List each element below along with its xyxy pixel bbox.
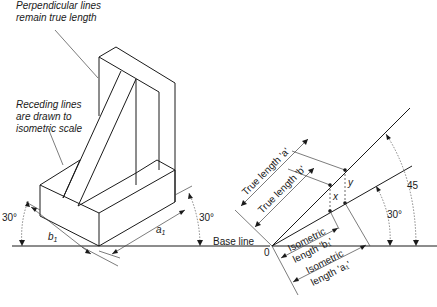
web-front-edge-2 <box>78 79 136 206</box>
point-b-true <box>328 183 332 187</box>
arrowhead <box>386 134 391 140</box>
arrowhead <box>197 240 203 246</box>
receding-annotation-line3: isometric scale <box>16 123 83 134</box>
left-30-angle-arc <box>22 201 28 246</box>
iso-b-extension <box>330 211 339 229</box>
base-inner-back-edge <box>78 173 136 206</box>
arrowhead <box>387 240 393 246</box>
arrowhead <box>376 186 381 192</box>
receding-annotation-line1: Receding lines <box>16 99 82 110</box>
arrowhead <box>19 240 25 246</box>
arrowhead <box>188 193 193 199</box>
base-inner-joint <box>136 160 157 173</box>
upright-top-edges <box>99 47 175 202</box>
arrowhead <box>281 253 287 258</box>
y-label: y <box>347 177 354 188</box>
isometric-bracket-drawing <box>40 47 175 246</box>
b1-dimension-line <box>31 207 91 254</box>
perpendicular-annotation-line1: Perpendicular lines <box>16 0 101 11</box>
base-line-label: Base line <box>213 236 255 247</box>
receding-annotation-line2: are drawn to <box>16 111 72 122</box>
x-label: x <box>332 191 339 202</box>
base-right-inner-edge <box>157 160 175 170</box>
point-a-true <box>343 168 347 172</box>
upright-top-front-edge <box>99 57 159 92</box>
perpendicular-annotation-line2: remain true length <box>16 12 97 23</box>
arrowhead <box>332 228 338 233</box>
base-top-front-edges <box>40 170 175 213</box>
right-30-angle-label: 30° <box>199 212 214 223</box>
isometric-projection-diagram: Perpendicular lines remain true length R… <box>0 0 437 307</box>
angle-45-label: 45 <box>407 180 419 191</box>
a1-label: a1 <box>156 224 166 236</box>
origin-label: 0 <box>264 247 270 258</box>
arrowhead <box>179 210 185 215</box>
left-30-angle-label: 30° <box>2 212 17 223</box>
b1-label: b1 <box>48 231 58 243</box>
perpendicular-leader-line <box>55 30 98 78</box>
arrowhead <box>413 240 419 246</box>
arrowhead <box>112 249 118 254</box>
arrowhead <box>293 277 299 282</box>
angle-30-label: 30° <box>387 209 402 220</box>
iso-a-extension <box>345 203 370 246</box>
